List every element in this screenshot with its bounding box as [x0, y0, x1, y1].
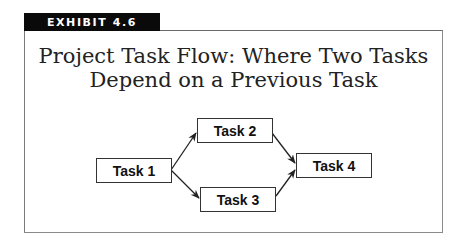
- edge-task3-task4: [276, 170, 295, 196]
- edge-task1-task2: [171, 133, 196, 170]
- task-4-node: Task 4: [296, 153, 372, 178]
- edge-task1-task3: [171, 170, 199, 198]
- edge-task2-task4: [272, 133, 295, 163]
- task-2-node: Task 2: [197, 118, 273, 143]
- task-1-node: Task 1: [96, 158, 172, 183]
- task-3-node: Task 3: [200, 187, 276, 212]
